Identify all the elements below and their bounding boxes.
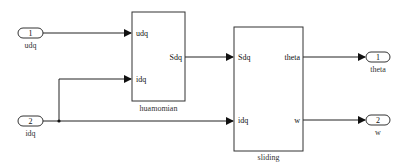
outport-2-label: w (375, 128, 381, 137)
line-idq-branch[interactable] (59, 79, 131, 121)
huamomian-input-idq: idq (136, 75, 146, 84)
sliding-output-theta: theta (284, 53, 300, 62)
sliding-output-w: w (294, 116, 300, 125)
inport-1-number: 1 (29, 29, 33, 38)
sliding-input-idq: idq (238, 116, 248, 125)
huamomian-input-udq: udq (136, 29, 148, 38)
inport-1[interactable]: 1 udq (18, 28, 43, 50)
inport-2-label: idq (25, 129, 35, 138)
huamomian-block-name: huamomian (140, 104, 178, 113)
simulink-diagram: 1 udq 2 idq udq idq Sdq huamomian Sdq id… (0, 0, 403, 168)
branch-point (57, 119, 60, 122)
outport-1-label: theta (370, 65, 386, 74)
inport-2-number: 2 (29, 117, 33, 126)
huamomian-output-sdq: Sdq (170, 53, 182, 62)
sliding-input-sdq: Sdq (238, 53, 250, 62)
inport-2[interactable]: 2 idq (18, 116, 43, 138)
signal-lines (43, 33, 365, 121)
inport-1-label: udq (25, 41, 37, 50)
sliding-block-name: sliding (258, 153, 280, 162)
outport-2-number: 2 (376, 116, 380, 125)
block-huamomian[interactable]: udq idq Sdq huamomian (132, 12, 185, 113)
outport-1-number: 1 (376, 53, 380, 62)
block-sliding[interactable]: Sdq idq theta w sliding (234, 27, 303, 162)
outport-2[interactable]: 2 w (366, 115, 390, 137)
outport-1[interactable]: 1 theta (366, 52, 390, 74)
